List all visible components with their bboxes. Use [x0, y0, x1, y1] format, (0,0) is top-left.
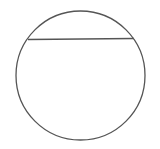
circle-chord-diagram [0, 0, 160, 149]
chord [28, 39, 134, 40]
circle [16, 11, 145, 140]
